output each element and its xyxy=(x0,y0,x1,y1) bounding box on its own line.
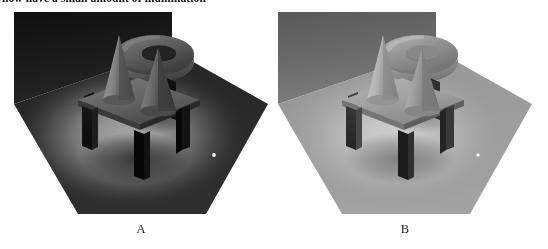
table-leg-front-left-side xyxy=(356,107,362,150)
table-leg-front-left xyxy=(346,106,356,150)
table-leg-front-center xyxy=(134,130,144,180)
table-leg-front-right xyxy=(446,105,454,150)
render-panel-a xyxy=(10,8,272,220)
panel-label-b: B xyxy=(274,222,536,236)
scene-b xyxy=(274,8,536,220)
figure-row: A B xyxy=(0,8,548,249)
table-leg-front-center-side xyxy=(408,131,414,180)
specular-dot xyxy=(212,153,216,157)
specular-dot xyxy=(476,153,479,156)
panel-label-a: A xyxy=(10,222,272,236)
table-leg-front-right-face xyxy=(440,108,446,154)
render-panel-b xyxy=(274,8,536,220)
table-leg-front-right-face xyxy=(176,108,182,154)
table-leg-front-center-side xyxy=(144,131,150,180)
table-leg-front-left xyxy=(82,106,92,150)
clipped-caption-text: now have a small amount of illumination xyxy=(2,0,542,5)
table-leg-front-left-side xyxy=(92,107,98,150)
scene-a xyxy=(10,8,272,220)
table-leg-front-right xyxy=(182,105,190,150)
table-leg-front-center xyxy=(398,130,408,180)
